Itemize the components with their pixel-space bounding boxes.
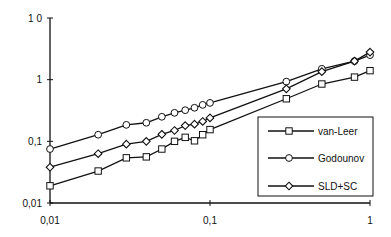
square-marker-icon [182, 134, 188, 140]
legend-label: van-Leer [318, 126, 358, 137]
square-marker-icon [47, 183, 53, 189]
y-tick-label: 1 0 [28, 13, 42, 24]
square-marker-icon [367, 67, 373, 73]
legend-label: SLD+SC [318, 181, 357, 192]
circle-marker-icon [47, 146, 54, 153]
square-marker-icon [123, 155, 129, 161]
diamond-marker-icon [283, 85, 291, 93]
circle-marker-icon [95, 131, 102, 138]
log-log-chart: 0,010,111 00,010,11 van-LeerGodounovSLD+… [0, 0, 391, 237]
y-tick-label: 0,1 [28, 136, 42, 147]
circle-marker-icon [123, 121, 130, 128]
diamond-marker-icon [94, 150, 102, 158]
y-tick-label: 0,01 [23, 198, 43, 209]
diamond-marker-icon [123, 140, 131, 148]
circle-legend-icon [286, 155, 293, 162]
x-tick-label: 0,01 [40, 215, 60, 226]
square-marker-icon [191, 138, 197, 144]
circle-marker-icon [283, 78, 290, 85]
diamond-marker-icon [46, 163, 54, 171]
square-marker-icon [207, 126, 213, 132]
square-marker-icon [159, 146, 165, 152]
square-legend-icon [286, 128, 292, 134]
diamond-marker-icon [181, 122, 189, 130]
square-marker-icon [143, 154, 149, 160]
legend-label: Godounov [318, 153, 364, 164]
square-marker-icon [171, 138, 177, 144]
diamond-marker-icon [171, 127, 179, 135]
x-tick-label: 0,1 [203, 215, 217, 226]
circle-marker-icon [191, 104, 198, 111]
square-marker-icon [319, 81, 325, 87]
circle-marker-icon [207, 99, 214, 106]
diamond-marker-icon [143, 138, 151, 146]
diamond-marker-icon [206, 114, 214, 122]
x-tick-label: 1 [367, 215, 373, 226]
y-tick-label: 1 [36, 74, 42, 85]
diamond-marker-icon [191, 120, 199, 128]
legend: van-LeerGodounovSLD+SC [258, 117, 373, 196]
circle-marker-icon [143, 119, 150, 126]
diamond-marker-icon [199, 118, 207, 126]
circle-marker-icon [182, 107, 189, 114]
square-marker-icon [351, 74, 357, 80]
square-marker-icon [199, 132, 205, 138]
circle-marker-icon [171, 109, 178, 116]
square-marker-icon [283, 96, 289, 102]
square-marker-icon [95, 168, 101, 174]
circle-marker-icon [199, 101, 206, 108]
circle-marker-icon [158, 113, 165, 120]
diamond-marker-icon [158, 131, 166, 139]
